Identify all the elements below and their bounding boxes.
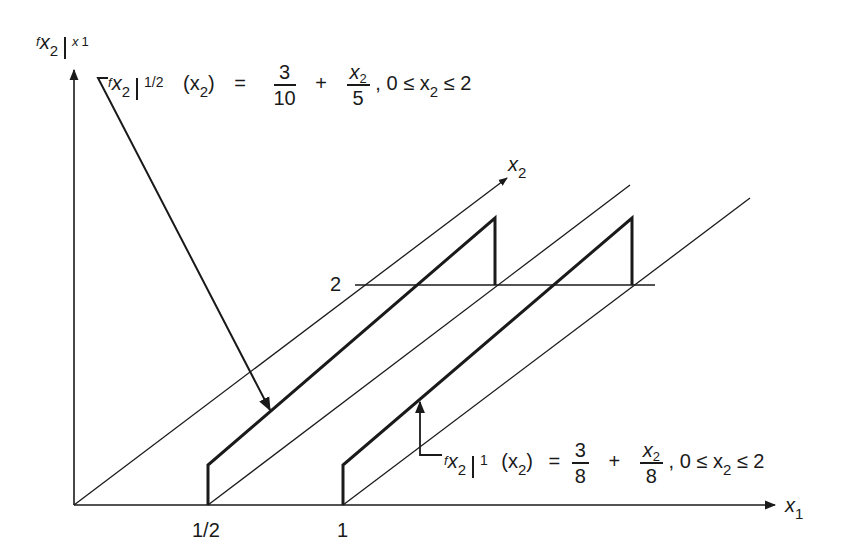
x2-axis-label: x2: [508, 154, 526, 174]
conditional-bar: [64, 37, 66, 59]
tick-x1-one: 1: [337, 520, 348, 540]
annotation-density-half: fx21/2 (x2) = 310 + x25 , 0 ≤ x2 ≤ 2: [108, 62, 471, 108]
range-subscript: 2: [430, 83, 438, 100]
argument-subscript: 2: [200, 83, 208, 100]
x-symbol: x: [448, 450, 458, 472]
numerator: 3: [572, 440, 589, 464]
plus-sign: +: [315, 72, 327, 94]
fraction-3-8: 38: [572, 440, 589, 486]
fraction-x2-5: x25: [347, 62, 370, 108]
subscript: 2: [122, 83, 130, 100]
numerator-subscript: 2: [360, 71, 367, 86]
argument-close: ): [208, 72, 215, 94]
argument: (x: [501, 450, 518, 472]
cond-symbol: x: [72, 34, 79, 49]
cond-subscript: 1: [81, 34, 88, 49]
subscript: 2: [518, 164, 526, 181]
tick-x2-two: 2: [330, 274, 341, 294]
numerator: x: [643, 439, 653, 461]
argument-close: ): [526, 450, 533, 472]
equals-sign: =: [234, 72, 246, 94]
vertical-axis-label: fx2x1: [36, 32, 89, 55]
numerator: 3: [274, 62, 296, 86]
f-symbol: f: [444, 453, 448, 468]
plus-sign: +: [609, 450, 621, 472]
f-symbol: f: [108, 75, 112, 90]
x2-axis: [74, 178, 507, 505]
denominator: 8: [572, 464, 589, 486]
annotation-density-one: fx21 (x2) = 38 + x28 , 0 ≤ x2 ≤ 2: [444, 440, 764, 486]
x-symbol: x: [112, 72, 122, 94]
subscript: 1: [795, 505, 803, 522]
x-symbol: x: [508, 153, 518, 175]
conditional-bar: [136, 78, 138, 100]
denominator: 8: [640, 464, 663, 486]
range-start: , 0 ≤ x: [375, 72, 429, 94]
fraction-3-10: 310: [274, 62, 296, 108]
x1-axis-label: x1: [785, 495, 803, 515]
denominator: 5: [347, 86, 370, 108]
range-end: ≤ 2: [444, 72, 472, 94]
subscript: 2: [50, 42, 58, 59]
x-symbol: x: [40, 31, 50, 53]
conditional-bar: [472, 456, 474, 478]
numerator: x: [350, 61, 360, 83]
fraction-x2-8: x28: [640, 440, 663, 486]
condition-value: 1/2: [144, 74, 163, 90]
argument-subscript: 2: [518, 461, 526, 478]
numerator-subscript: 2: [653, 449, 660, 464]
range-start: , 0 ≤ x: [669, 450, 723, 472]
argument: (x: [183, 72, 200, 94]
condition-value: 1: [480, 452, 488, 468]
pointer-half: [98, 78, 270, 410]
pointer-one: [420, 402, 442, 455]
range-end: ≤ 2: [737, 450, 765, 472]
x-symbol: x: [785, 494, 795, 516]
tick-x1-half: 1/2: [192, 520, 220, 540]
subscript: 2: [458, 461, 466, 478]
denominator: 10: [274, 86, 296, 108]
f-symbol: f: [36, 34, 40, 49]
equals-sign: =: [549, 450, 561, 472]
range-subscript: 2: [723, 461, 731, 478]
